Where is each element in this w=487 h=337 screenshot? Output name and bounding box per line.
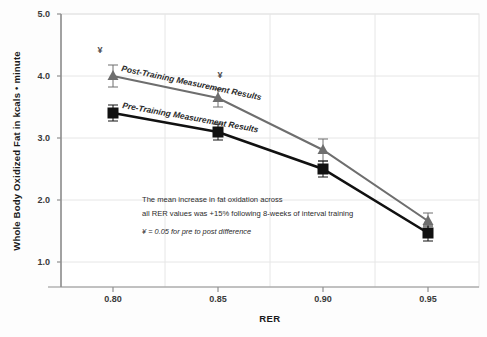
y-axis-title: Whole Body Oxidized Fat in kcals • minut… xyxy=(11,51,22,250)
y-tick-label-3: 3.0 xyxy=(37,133,50,143)
y-tick-label-1: 1.0 xyxy=(37,257,50,267)
chart-container: 5.0 4.0 3.0 2.0 1.0 0.80 0.85 0.90 0.95 … xyxy=(0,0,487,337)
x-tick-label-0: 0.80 xyxy=(104,294,122,304)
pre-training-marker-0 xyxy=(108,108,119,119)
x-tick-label-1: 0.85 xyxy=(209,294,227,304)
x-tick-label-3: 0.95 xyxy=(419,294,437,304)
significance-marker-1: ¥ xyxy=(217,70,222,80)
significance-marker-0: ¥ xyxy=(97,45,102,55)
pre-training-marker-1 xyxy=(213,127,224,138)
x-axis-title: RER xyxy=(259,313,280,324)
y-tick-label-5: 5.0 xyxy=(37,9,50,19)
pre-training-marker-3 xyxy=(423,228,434,239)
annotation-line-1: The mean increase in fat oxidation acros… xyxy=(142,195,283,204)
x-tick-label-2: 0.90 xyxy=(314,294,332,304)
annotation-significance-legend: ¥ = 0.05 for pre to post difference xyxy=(142,227,251,236)
y-tick-label-2: 2.0 xyxy=(37,195,50,205)
y-tick-label-4: 4.0 xyxy=(37,71,50,81)
annotation-line-2: all RER values was +15% following 8-week… xyxy=(142,209,353,218)
line-chart: 5.0 4.0 3.0 2.0 1.0 0.80 0.85 0.90 0.95 … xyxy=(0,0,487,337)
pre-training-marker-2 xyxy=(318,164,329,175)
